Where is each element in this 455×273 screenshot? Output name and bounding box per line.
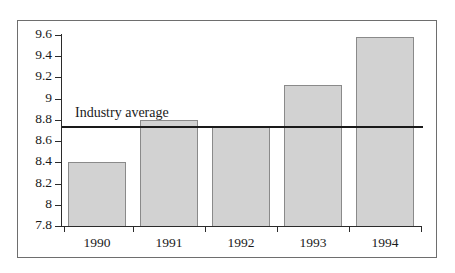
y-axis-tick-label-text: 9 — [0, 91, 52, 105]
y-axis-line — [61, 34, 62, 227]
y-axis-tick-label: 9.2 — [0, 69, 52, 83]
y-axis-tick — [55, 120, 62, 121]
y-axis-tick-label-text: 9.2 — [0, 69, 52, 83]
bar-1993 — [284, 85, 342, 226]
x-axis-tick — [421, 226, 422, 232]
y-axis-tick — [55, 205, 62, 206]
x-axis-tick-label: 1993 — [278, 235, 348, 250]
industry-average-line — [62, 126, 423, 128]
x-axis-tick — [277, 226, 278, 232]
bar-1994 — [356, 37, 414, 226]
y-axis-tick-label: 7.8 — [0, 218, 52, 232]
y-axis-tick-label-text: 9.6 — [0, 27, 52, 41]
y-axis-tick-label: 8.2 — [0, 176, 52, 190]
bar-1991 — [140, 120, 198, 226]
y-axis-tick-label-text: 8.4 — [0, 154, 52, 168]
y-axis-tick-label-text: 8.6 — [0, 133, 52, 147]
y-axis-tick — [55, 141, 62, 142]
y-axis-tick-label: 9 — [0, 91, 52, 105]
y-axis-tick-label-text: 9.4 — [0, 48, 52, 62]
y-axis-tick — [55, 184, 62, 185]
bar-1992 — [212, 127, 270, 226]
x-axis-tick — [64, 226, 65, 232]
y-axis-tick — [55, 99, 62, 100]
x-axis-tick — [133, 226, 134, 232]
y-axis-tick-label-text: 8.2 — [0, 176, 52, 190]
y-axis-tick-label: 8.4 — [0, 154, 52, 168]
y-axis-tick-label: 8.8 — [0, 112, 52, 126]
y-axis-tick-label: 9.4 — [0, 48, 52, 62]
x-axis-tick — [349, 226, 350, 232]
y-axis-tick-label-text: 7.8 — [0, 218, 52, 232]
bar-chart-figure: 9.69.49.298.88.68.48.287.8 1990199119921… — [0, 0, 455, 273]
x-axis-tick — [205, 226, 206, 232]
x-axis-line — [61, 226, 422, 227]
y-axis-tick-label: 8.6 — [0, 133, 52, 147]
y-axis-tick — [55, 162, 62, 163]
bar-1990 — [68, 162, 126, 226]
y-axis-tick — [55, 77, 62, 78]
y-axis-tick — [55, 226, 62, 227]
y-axis-tick-label-text: 8 — [0, 197, 52, 211]
y-axis-tick-label-text: 8.8 — [0, 112, 52, 126]
x-axis-tick-label: 1992 — [206, 235, 276, 250]
y-axis-tick — [55, 35, 62, 36]
y-axis-tick-label: 8 — [0, 197, 52, 211]
industry-average-label: Industry average — [75, 105, 169, 120]
y-axis-tick — [55, 56, 62, 57]
y-axis-tick-label: 9.6 — [0, 27, 52, 41]
x-axis-tick-label: 1990 — [62, 235, 132, 250]
x-axis-tick-label: 1994 — [350, 235, 420, 250]
x-axis-tick-label: 1991 — [134, 235, 204, 250]
